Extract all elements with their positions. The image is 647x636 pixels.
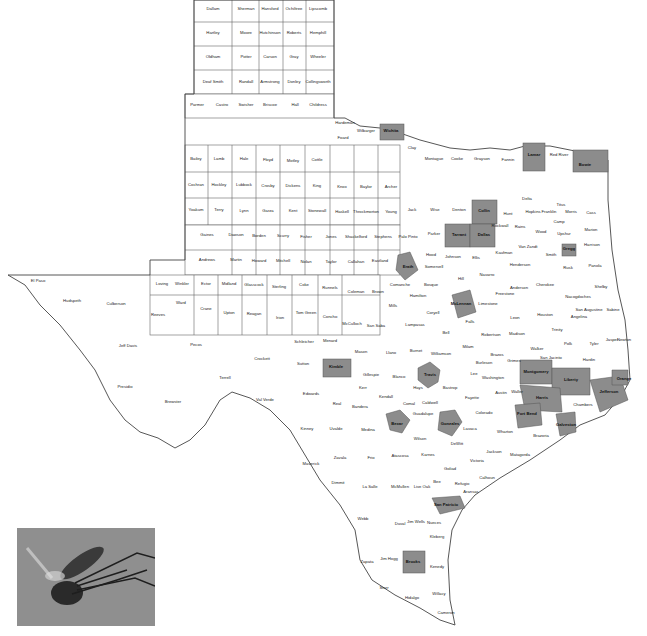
county-label: Armstrong xyxy=(260,80,279,84)
county-label: Cooke xyxy=(451,157,463,161)
county-label: Houston xyxy=(537,313,553,317)
county-label: Dickens xyxy=(286,184,301,188)
county-label: Wilbarger xyxy=(357,129,375,133)
county-label: Anderson xyxy=(510,286,528,290)
county-label: Howard xyxy=(252,259,266,263)
county-label: Wood xyxy=(536,230,547,234)
county-label: Brewster xyxy=(165,400,182,404)
county-label: Childress xyxy=(309,103,326,107)
county-label: Scurry xyxy=(277,234,289,238)
county-label: Reagan xyxy=(247,312,262,316)
county-label: Crockett xyxy=(254,357,270,361)
mosquito-photo xyxy=(17,528,155,626)
county-label: Coke xyxy=(299,283,309,287)
county-label: Yoakum xyxy=(189,208,204,212)
county-label: Victoria xyxy=(470,459,484,463)
county-label: Wilson xyxy=(414,437,427,441)
county-label: Chambers xyxy=(573,403,592,407)
county-label: Delta xyxy=(522,197,532,201)
county-label: Palo Pinto xyxy=(398,235,417,239)
county-label: Trinity xyxy=(551,328,562,332)
county-label: Loving xyxy=(156,282,168,286)
county-label: Edwards xyxy=(303,392,319,396)
county-label: Midland xyxy=(222,282,237,286)
county-label: Bastrop xyxy=(443,386,457,390)
county-label: Carson xyxy=(263,55,277,59)
county-label: Pecos xyxy=(190,343,202,347)
county-label: Nueces xyxy=(427,521,441,525)
county-label: Gray xyxy=(289,55,298,59)
county-label: Clay xyxy=(408,146,416,150)
county-label: Williamson xyxy=(431,352,451,356)
county-label: Henderson xyxy=(510,263,531,267)
county-label: Franklin xyxy=(542,210,557,214)
county-label: Denton xyxy=(452,208,466,212)
county-label: Concho xyxy=(323,315,337,319)
county-label: Lipscomb xyxy=(309,7,327,11)
county-label: Gillespie xyxy=(363,373,379,377)
county-label: Zavala xyxy=(334,456,347,460)
county-label: Borden xyxy=(252,234,266,238)
county-label: Aransas xyxy=(463,490,478,494)
county-label: Marion xyxy=(585,228,598,232)
county-label: Hamilton xyxy=(410,294,427,298)
county-label: Maverick xyxy=(303,462,320,466)
county-label: Angelina xyxy=(571,315,587,319)
county-label: Coryell xyxy=(426,311,439,315)
county-label: Cherokee xyxy=(536,283,554,287)
county-label: Kerr xyxy=(359,386,367,390)
county-label: Dallam xyxy=(206,7,219,11)
county-label: Crane xyxy=(200,307,211,311)
county-label: Nacogdoches xyxy=(565,295,591,299)
county-label: Comanche xyxy=(390,283,410,287)
county-label: Dawson xyxy=(228,233,243,237)
county-label: Kinney xyxy=(301,427,314,431)
county-label: Hill xyxy=(458,277,464,281)
county-label: Motley xyxy=(287,159,299,163)
county-label: La Salle xyxy=(362,485,377,489)
county-label: Hunt xyxy=(504,212,513,216)
county-label: Randall xyxy=(239,80,253,84)
county-label: Real xyxy=(333,402,342,406)
county-label: Callahan xyxy=(348,260,365,264)
county-label: DeWitt xyxy=(451,442,464,446)
county-label: Jim Hogg xyxy=(380,557,398,561)
county-label: Lamb xyxy=(214,157,224,161)
county-label: Reeves xyxy=(151,313,165,317)
county-label: Montague xyxy=(425,157,444,161)
county-label: Briscoe xyxy=(263,103,277,107)
county-label: Medina xyxy=(361,428,375,432)
county-label: Lubbock xyxy=(236,183,252,187)
county-label: Hansford xyxy=(262,7,279,11)
county-label: Donley xyxy=(287,80,300,84)
county-label: Milam xyxy=(462,345,473,349)
county-label: Karnes xyxy=(421,453,434,457)
county-label: Gregg xyxy=(563,247,575,251)
county-label: Burnet xyxy=(410,349,422,353)
county-label: Travis xyxy=(424,373,436,377)
county-label: Parmer xyxy=(190,103,204,107)
county-label: Sterling xyxy=(272,285,286,289)
county-label: Somervell xyxy=(425,265,444,269)
county-label: Hall xyxy=(291,103,298,107)
county-label: Lynn xyxy=(240,209,249,213)
county-label: Lee xyxy=(471,372,478,376)
county-label: Kent xyxy=(289,209,298,213)
county-label: Hardin xyxy=(583,358,595,362)
county-label: Goliad xyxy=(444,467,456,471)
county-label: San Augustine xyxy=(575,308,602,312)
county-label: Red River xyxy=(550,153,569,157)
county-label: Guadalupe xyxy=(413,412,434,416)
county-label: Bexar xyxy=(391,422,403,426)
county-label: Rains xyxy=(515,225,526,229)
county-label: Smith xyxy=(546,253,557,257)
county-label: Hutchinson xyxy=(260,31,281,35)
county-label: Swisher xyxy=(239,103,254,107)
county-label: Jackson xyxy=(486,450,501,454)
county-label: Duval xyxy=(395,522,406,526)
county-label: Kenedy xyxy=(430,565,444,569)
county-label: Titus xyxy=(557,203,566,207)
county-label: Stonewall xyxy=(308,209,326,213)
county-label: Martin xyxy=(230,258,242,262)
county-label: Waller xyxy=(511,390,523,394)
